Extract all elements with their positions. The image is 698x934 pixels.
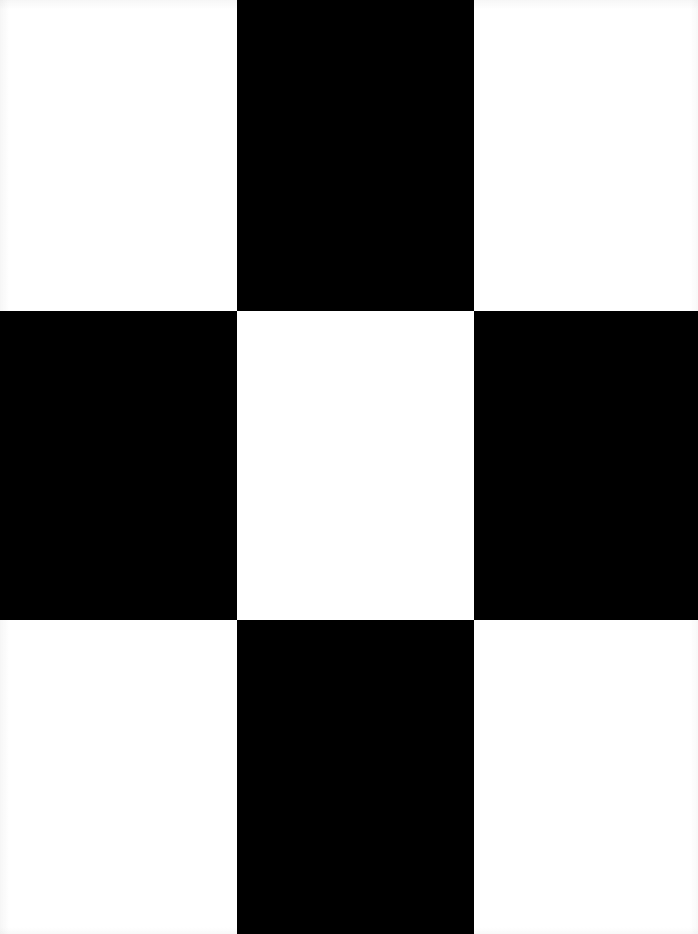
checker-cell-r2-c2 <box>474 620 698 934</box>
checker-cell-r2-c1 <box>237 620 474 934</box>
checker-cell-r1-c2 <box>474 311 698 620</box>
checker-cell-r1-c0 <box>0 311 237 620</box>
checker-cell-r2-c0 <box>0 620 237 934</box>
checker-cell-r0-c0 <box>0 0 237 311</box>
checker-cell-r1-c1 <box>237 311 474 620</box>
checker-cell-r0-c1 <box>237 0 474 311</box>
image-canvas <box>0 0 698 934</box>
checkerboard-grid <box>0 0 698 934</box>
checker-cell-r0-c2 <box>474 0 698 311</box>
